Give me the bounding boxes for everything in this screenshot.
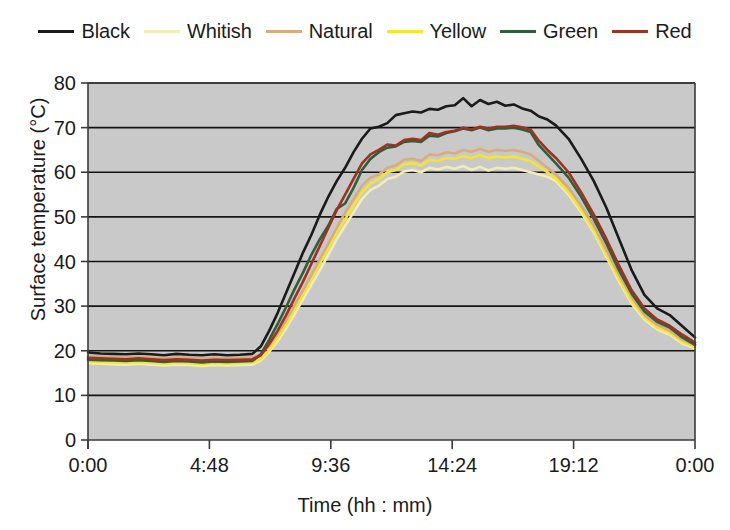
legend-swatch-green [500,30,536,33]
x-axis-title: Time (hh : mm) [0,494,730,517]
x-tick-label: 0:00 [676,454,715,476]
legend-swatch-natural [266,30,302,33]
y-tick-label: 60 [54,161,76,183]
x-tick-label: 4:48 [190,454,229,476]
x-tick-label: 9:36 [311,454,350,476]
legend-item-whitish: Whitish [144,21,252,41]
chart-plot-area: 010203040506070800:004:489:3614:2419:120… [0,48,730,498]
legend-label: Whitish [187,21,252,41]
legend-label: Black [81,21,129,41]
legend-item-natural: Natural [266,21,373,41]
legend-swatch-yellow [387,30,423,33]
legend-item-green: Green [500,21,598,41]
y-tick-label: 30 [54,295,76,317]
y-tick-label: 50 [54,206,76,228]
legend-swatch-black [38,30,74,33]
y-tick-label: 0 [65,429,76,451]
legend-label: Natural [309,21,373,41]
legend-item-red: Red [612,21,691,41]
y-tick-label: 70 [54,117,76,139]
figure: BlackWhitishNaturalYellowGreenRed Surfac… [0,0,730,530]
legend-label: Green [543,21,598,41]
legend-item-yellow: Yellow [387,21,486,41]
x-tick-label: 14:24 [427,454,477,476]
y-tick-label: 20 [54,340,76,362]
x-tick-label: 19:12 [549,454,599,476]
legend-label: Red [655,21,691,41]
y-tick-label: 10 [54,384,76,406]
legend-swatch-whitish [144,30,180,33]
legend-swatch-red [612,30,648,33]
legend-label: Yellow [430,21,486,41]
legend-item-black: Black [38,21,129,41]
x-tick-label: 0:00 [69,454,108,476]
y-tick-label: 80 [54,72,76,94]
chart-legend: BlackWhitishNaturalYellowGreenRed [0,14,730,48]
y-tick-label: 40 [54,251,76,273]
